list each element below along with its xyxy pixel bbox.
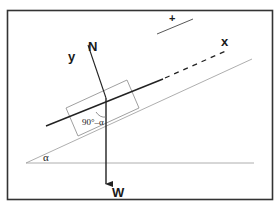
incline-surface	[26, 59, 252, 163]
free-body-diagram	[0, 0, 280, 209]
x-axis-solid	[46, 79, 163, 126]
incline-angle-label: α	[43, 152, 49, 163]
x-axis-dashed	[165, 50, 228, 78]
weight-label: W	[112, 186, 124, 199]
x-axis-label: x	[221, 35, 228, 48]
normal-force-label: N	[88, 40, 97, 53]
diagram-frame	[8, 11, 273, 200]
complement-angle-label: 90°–α	[82, 118, 104, 127]
y-axis-label: y	[68, 50, 75, 63]
positive-direction-label: +	[169, 13, 175, 24]
